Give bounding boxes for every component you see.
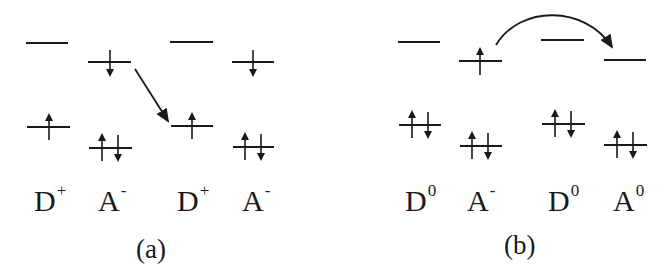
label-d-zero-1: D0	[405, 186, 436, 216]
panel-a	[26, 42, 274, 161]
caption-b: (b)	[504, 232, 535, 259]
caption-a: (a)	[136, 236, 166, 263]
site-b4-acceptor	[604, 60, 647, 158]
site-a1-donor	[26, 43, 70, 140]
label-d-plus-1: D+	[34, 186, 66, 216]
site-a1-acceptor	[88, 50, 132, 161]
site-b1-donor	[398, 42, 441, 138]
label-a-minus-b: A-	[467, 186, 495, 216]
site-a2-donor	[170, 42, 213, 139]
site-b3-donor	[541, 40, 585, 137]
label-a-minus-1: A-	[98, 186, 126, 216]
label-a-zero: A0	[613, 186, 644, 216]
site-a2-acceptor	[232, 50, 274, 160]
energy-level-diagram: D+ A- D+ A- (a) D0 A- D0 A0 (b)	[0, 0, 672, 276]
label-d-plus-2: D+	[177, 186, 209, 216]
hop-arrow-icon	[135, 69, 168, 121]
site-b2-acceptor	[459, 49, 502, 159]
hop-curved-arrow-icon	[496, 15, 612, 47]
diagram-graphics	[0, 0, 672, 276]
label-d-zero-2: D0	[548, 186, 579, 216]
panel-b	[398, 15, 647, 159]
label-a-minus-2: A-	[242, 186, 270, 216]
